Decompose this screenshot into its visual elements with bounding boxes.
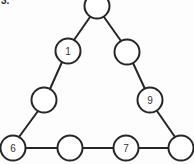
node-left-middle-circle[interactable] [32,88,57,113]
edge-right-upper-right-middle [133,63,145,89]
node-bottom-right-circle[interactable] [169,136,194,161]
edge-left-upper-left-middle [50,62,62,89]
node-bottom-mid-left[interactable] [58,136,83,161]
node-left-middle[interactable] [32,88,57,113]
figure-container: 3. 1 [0,0,194,164]
node-right-middle-label: 9 [147,95,153,106]
node-bottom-right[interactable] [169,136,194,161]
node-bottom-mid-right-label: 7 [123,143,129,154]
node-left-upper[interactable]: 1 [56,39,81,64]
node-apex[interactable] [85,0,110,19]
edge-group [19,17,175,148]
node-right-upper[interactable] [115,40,140,65]
node-right-middle[interactable]: 9 [138,88,163,113]
node-apex-circle[interactable] [85,0,110,19]
node-group: 1 9 6 [1,0,194,161]
edge-right-middle-bottom-right [157,111,175,137]
node-right-upper-circle[interactable] [115,40,140,65]
edge-apex-left-upper [74,17,90,40]
edge-left-middle-bottom-left [19,111,38,137]
node-bottom-left[interactable]: 6 [1,136,26,161]
triangle-puzzle-diagram: 1 9 6 [0,0,194,164]
node-bottom-mid-left-circle[interactable] [58,136,83,161]
edge-apex-right-upper [104,17,121,41]
node-bottom-mid-right[interactable]: 7 [114,136,139,161]
node-left-upper-label: 1 [65,46,71,57]
node-bottom-left-label: 6 [10,143,16,154]
